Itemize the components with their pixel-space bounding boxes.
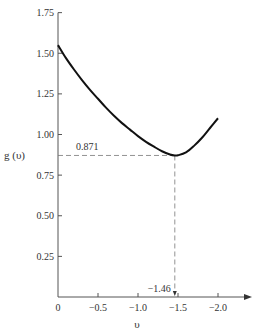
y-axis-label: g (υ) xyxy=(4,149,25,162)
x-tick-label: −1.0 xyxy=(129,302,147,313)
x-tick-label: −2.0 xyxy=(209,302,227,313)
reference-lines: 0.871−1.46 xyxy=(58,141,177,296)
series-line-g xyxy=(58,45,218,156)
x-tick-label: 0 xyxy=(56,302,61,313)
chart: 0.250.500.751.001.251.501.750−0.5−1.0−1.… xyxy=(0,0,258,336)
y-tick-label: 0.25 xyxy=(37,251,55,262)
series xyxy=(58,45,218,156)
y-tick-label: 0.75 xyxy=(37,170,55,181)
axes: 0.250.500.751.001.251.501.750−0.5−1.0−1.… xyxy=(37,7,253,313)
x-axis-arrow-icon xyxy=(244,294,252,300)
x-tick-label: −0.5 xyxy=(89,302,107,313)
x-axis-label: υ xyxy=(134,318,140,330)
min-arrow-icon xyxy=(173,291,177,296)
y-tick-label: 1.75 xyxy=(37,7,55,18)
labels: g (υ) υ xyxy=(4,149,140,330)
y-tick-label: 1.25 xyxy=(37,88,55,99)
min-value-annotation: 0.871 xyxy=(76,141,99,152)
y-tick-label: 0.50 xyxy=(37,210,55,221)
x-tick-label: −1.5 xyxy=(169,302,187,313)
y-tick-label: 1.00 xyxy=(37,129,55,140)
y-tick-label: 1.50 xyxy=(37,48,55,59)
min-position-annotation: −1.46 xyxy=(148,283,171,294)
